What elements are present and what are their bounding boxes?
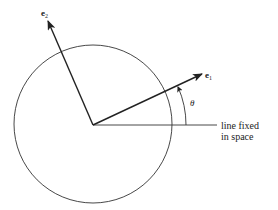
e2-label: e2 bbox=[41, 8, 48, 19]
fixed-line-label-line1: line fixed bbox=[221, 120, 259, 131]
rotating-frame-diagram: e2 e1 θ line fixed in space bbox=[0, 0, 278, 210]
theta-label: θ bbox=[190, 98, 195, 108]
vector-e2 bbox=[48, 21, 93, 125]
e1-label: e1 bbox=[205, 70, 212, 81]
angle-arc-theta bbox=[178, 87, 186, 125]
fixed-line-label-line2: in space bbox=[221, 131, 254, 142]
